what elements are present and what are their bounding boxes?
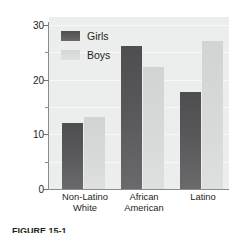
figure-caption: FIGURE 15-1 <box>12 226 67 233</box>
x-tick-label-line: American <box>99 203 189 214</box>
legend-label-girls: Girls <box>87 30 109 42</box>
bar-girls-non-latino-white <box>62 123 83 189</box>
legend-item-girls: Girls <box>61 28 110 43</box>
y-tick-label-10: 10 <box>24 129 44 140</box>
bar-girls-latino <box>180 92 201 189</box>
legend-label-boys: Boys <box>87 49 110 61</box>
legend-swatch-girls <box>61 31 80 41</box>
bar-boys-non-latino-white <box>84 117 105 189</box>
chart-legend: GirlsBoys <box>61 28 110 66</box>
y-tick-label-20: 20 <box>24 74 44 85</box>
y-tick-label-30: 30 <box>24 20 44 31</box>
bar-boys-latino <box>202 41 223 189</box>
x-tick-label-line: Latino <box>158 192 240 203</box>
figure-container: Percent of overweight 11- to 14-year- ol… <box>0 0 240 233</box>
x-tick-label-latino: Latino <box>158 192 240 203</box>
bar-boys-african-american <box>143 67 164 189</box>
legend-swatch-boys <box>61 50 80 60</box>
legend-item-boys: Boys <box>61 47 110 62</box>
bar-girls-african-american <box>121 46 142 189</box>
gridline-30 <box>49 25 229 26</box>
x-axis-line <box>48 189 229 190</box>
